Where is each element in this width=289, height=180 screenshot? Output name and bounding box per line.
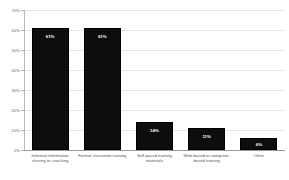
y-tick-label: 30%	[12, 88, 20, 93]
y-tick-label: 40%	[12, 68, 20, 73]
y-tick-label: 10%	[12, 128, 20, 133]
bar: 14%	[136, 122, 173, 150]
bar-value-label: 14%	[137, 128, 172, 134]
y-tick-mark	[21, 70, 24, 71]
category-label: Other	[235, 153, 283, 158]
category-label: Self-paced training materials	[130, 153, 178, 164]
category-label: Formal classroom training	[78, 153, 126, 158]
plot-area: 0%10%20%30%40%50%60%70% 61%61%14%11%6%	[24, 10, 285, 150]
y-tick-mark	[21, 130, 24, 131]
y-tick-label: 20%	[12, 108, 20, 113]
category-label: Informal information sharing or coaching	[26, 153, 74, 164]
y-tick-mark	[21, 110, 24, 111]
bar: 11%	[188, 128, 225, 150]
x-axis-line	[24, 150, 285, 151]
y-tick-mark	[21, 50, 24, 51]
y-tick-mark	[21, 30, 24, 31]
bar: 61%	[32, 28, 69, 150]
bar: 6%	[240, 138, 277, 150]
bar-value-label: 61%	[33, 34, 68, 40]
bar: 61%	[84, 28, 121, 150]
y-tick-mark	[21, 10, 24, 11]
bar-value-label: 6%	[241, 142, 276, 148]
y-tick-label: 60%	[12, 28, 20, 33]
y-axis-line	[24, 10, 25, 150]
y-tick-mark	[21, 90, 24, 91]
y-tick-label: 0%	[14, 148, 20, 153]
y-tick-mark	[21, 150, 24, 151]
bar-chart: Percent of respondents 0%10%20%30%40%50%…	[0, 0, 289, 180]
y-tick-label: 50%	[12, 48, 20, 53]
category-label: Web-based or computer-based training	[183, 153, 231, 164]
bar-value-label: 61%	[85, 34, 120, 40]
bar-value-label: 11%	[189, 134, 224, 140]
gridline	[25, 10, 285, 11]
y-tick-label: 70%	[12, 8, 20, 13]
